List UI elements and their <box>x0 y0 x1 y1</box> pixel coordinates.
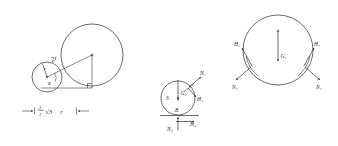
label-H2: H₂ <box>189 121 196 127</box>
small-radius-label: r <box>44 66 47 72</box>
dimension-variable: r <box>61 109 64 115</box>
dimension-radical: √3 <box>45 108 53 116</box>
label-G2: G₂ <box>181 90 187 96</box>
figure-canvas: 2r r α 3 2 √3 r <box>0 0 338 146</box>
force-arrow-N1 <box>189 77 201 87</box>
label-G1: G₁ <box>281 53 287 59</box>
force-arrow-N1-right <box>305 67 320 80</box>
label-H1: H₁ <box>196 96 203 102</box>
dimension-annotation: 3 2 √3 r <box>22 105 89 117</box>
panel-small-ball-fbd: S G₂ N₁ H₁ N₂ H₂ B <box>160 70 206 132</box>
panel-geometry: 2r r α 3 2 √3 r <box>22 24 123 117</box>
small-ball-center-label: S <box>166 95 169 101</box>
label-N1: N₁ <box>199 70 206 76</box>
dimension-denominator: 2 <box>39 112 42 117</box>
contact-point-label-B: B <box>175 107 179 113</box>
label-H1-left: H₁ <box>233 41 240 47</box>
angle-arc <box>55 73 57 81</box>
label-N1-left: N₁ <box>231 84 238 90</box>
label-N1-right: N₁ <box>315 84 322 90</box>
dimension-numerator: 3 <box>39 105 42 110</box>
label-H1-right: H₁ <box>313 41 320 47</box>
physics-figure: 2r r α 3 2 √3 r <box>0 0 338 146</box>
angle-label: α <box>48 80 51 86</box>
label-N2: N₂ <box>166 126 173 132</box>
force-arrow-N1-left <box>236 67 251 80</box>
panel-large-ball-fbd: G₁ H₁ N₁ H₁ N₁ <box>231 15 322 90</box>
force-arrow-H1 <box>188 88 196 97</box>
